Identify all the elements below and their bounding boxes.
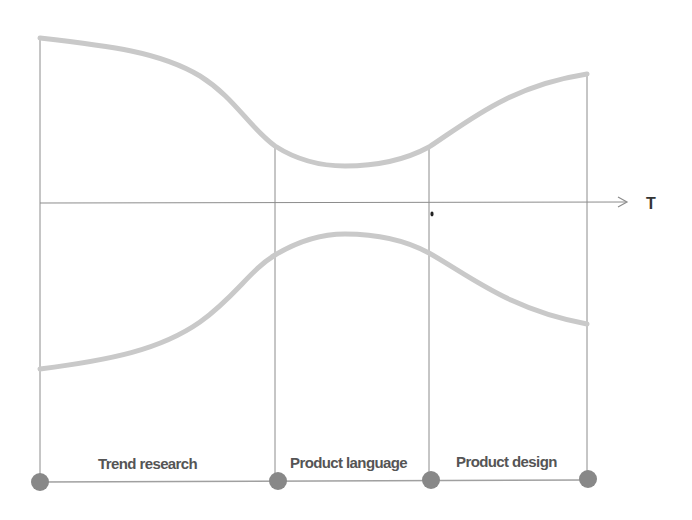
phase-label-product-language: Product language [290,454,407,471]
milestone-node-language-design [422,471,440,489]
milestone-node-start [31,473,49,491]
lower-curve [40,234,587,369]
time-axis [40,202,626,203]
phase-label-trend-research: Trend research [98,455,198,472]
funnel-diagram: T Trend research Product language Produc… [0,0,692,520]
time-axis-label: T [646,195,656,212]
milestone-node-trend-language [269,472,287,490]
milestone-node-end [579,470,597,488]
timeline-base [40,480,587,482]
ink-dot [430,212,433,217]
phase-label-product-design: Product design [456,453,557,470]
upper-curve [40,38,587,166]
